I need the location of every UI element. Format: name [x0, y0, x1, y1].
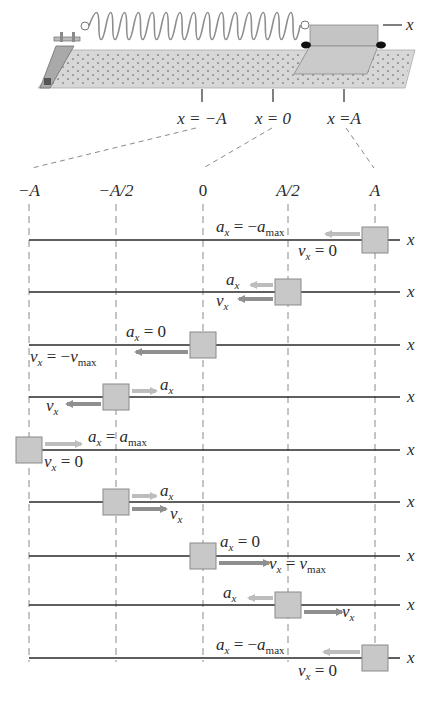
quantity-label: vx	[170, 504, 183, 525]
motion-rows: xax = −amaxvx = 0xaxvxxax = 0vx = −vmaxx…	[16, 217, 415, 682]
quantity-label: ax = 0	[220, 532, 260, 553]
position-labels: x = −Ax = 0x =A	[176, 109, 361, 128]
motion-row: xax = −amaxvx = 0	[29, 635, 415, 682]
glider-block	[103, 384, 129, 410]
motion-row: xax = amaxvx = 0	[16, 427, 415, 473]
column-label: −A/2	[98, 181, 134, 200]
motion-row: xaxvx	[29, 375, 415, 417]
glider-block	[190, 543, 216, 569]
quantity-label: ax = −amax	[216, 635, 285, 656]
motion-row: xax = −amaxvx = 0	[29, 217, 415, 262]
quantity-label: ax	[160, 481, 174, 502]
column-label: 0	[199, 181, 208, 200]
quantity-label: vx = 0	[298, 661, 337, 682]
quantity-label: ax	[226, 270, 240, 291]
spring	[81, 13, 309, 40]
glider-block	[362, 227, 388, 253]
quantity-label: ax	[223, 583, 237, 604]
row-axis-label: x	[406, 387, 415, 406]
glider-block	[275, 592, 301, 618]
motion-row: xaxvx	[29, 270, 415, 312]
glider-block	[190, 332, 216, 358]
connector-dashes	[32, 128, 374, 168]
column-label: A	[369, 181, 381, 200]
glider-block	[103, 489, 129, 515]
motion-row: xax = 0vx = −vmax	[29, 322, 415, 368]
motion-row: xax = 0vx = vmax	[29, 532, 415, 575]
quantity-label: ax = amax	[88, 427, 147, 448]
position-ticks	[202, 89, 344, 102]
row-axis-label: x	[406, 282, 415, 301]
row-axis-label: x	[406, 492, 415, 511]
quantity-label: vx = vmax	[269, 554, 327, 575]
row-axis-label: x	[406, 648, 415, 667]
quantity-label: vx	[216, 291, 229, 312]
shm-glider-diagram: x x = −Ax = 0x =A −A−A/20A/2A xax = −ama…	[0, 0, 434, 703]
air-track-apparatus: x x = −Ax = 0x =A	[38, 13, 415, 129]
column-label: A/2	[275, 181, 300, 200]
glider-block	[16, 437, 42, 463]
row-axis-label: x	[406, 440, 415, 459]
quantity-label: vx	[46, 396, 59, 417]
motion-row: xaxvx	[29, 481, 415, 525]
quantity-label: vx = 0	[298, 241, 337, 262]
glider-block	[362, 645, 388, 671]
row-axis-label: x	[406, 595, 415, 614]
motion-row: xaxvx	[29, 583, 415, 623]
row-axis-label: x	[406, 546, 415, 565]
quantity-label: vx = 0	[44, 452, 83, 473]
position-label: x = 0	[254, 109, 292, 128]
position-label: x =A	[326, 109, 361, 128]
quantity-label: ax = −amax	[216, 217, 285, 238]
row-axis-label: x	[406, 335, 415, 354]
position-label: x = −A	[176, 109, 227, 128]
quantity-label: vx = −vmax	[30, 347, 97, 368]
quantity-label: ax = 0	[126, 322, 166, 343]
glider-block	[275, 279, 301, 305]
quantity-label: ax	[160, 375, 174, 396]
column-label: −A	[18, 181, 40, 200]
row-axis-label: x	[406, 230, 415, 249]
apparatus-axis-label: x	[405, 15, 414, 34]
